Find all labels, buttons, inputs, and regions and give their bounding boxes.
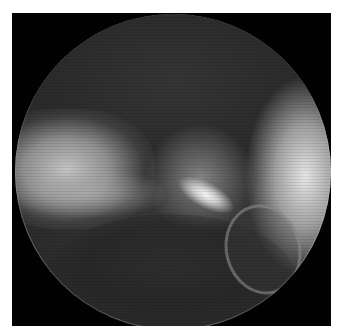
fluoroscopy-field bbox=[15, 14, 331, 326]
scanline-overlay bbox=[15, 14, 331, 326]
image-frame bbox=[12, 13, 331, 326]
